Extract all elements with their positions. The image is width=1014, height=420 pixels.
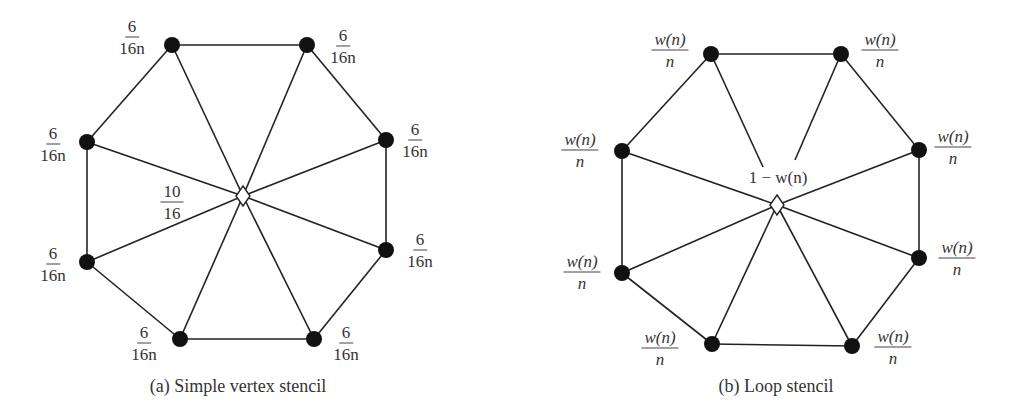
neighbor-vertices: [79, 37, 394, 347]
figure-caption-b: (b) Loop stencil: [719, 376, 834, 397]
spoke-edges: [622, 54, 919, 346]
simple-vertex-stencil-graph: [79, 37, 394, 347]
weight-label: 6 16n: [131, 323, 157, 364]
loop-stencil-graph: [614, 46, 927, 354]
weight-label: 6 16n: [330, 26, 356, 67]
weight-label: 6 16n: [407, 230, 433, 271]
weight-label: w(n) n: [563, 252, 600, 293]
ring-edges: [87, 45, 386, 339]
weight-label: w(n) n: [874, 327, 911, 368]
weight-label: w(n) n: [641, 328, 678, 369]
center-weight-label: 1 − w(n): [749, 168, 808, 188]
weight-label: w(n) n: [861, 30, 898, 71]
weight-label: 6 16n: [40, 124, 66, 165]
weight-label: w(n) n: [934, 127, 971, 168]
center-vertex-diamond: [236, 186, 250, 206]
weight-label: 6 16n: [402, 120, 428, 161]
weight-label: w(n) n: [938, 238, 975, 279]
weight-label: 6 16n: [119, 17, 145, 58]
center-vertex-diamond: [770, 195, 784, 215]
center-weight-label: 10 16: [161, 182, 184, 223]
weight-label: 6 16n: [40, 244, 66, 285]
weight-label: w(n) n: [651, 30, 688, 71]
spoke-edges: [87, 45, 386, 339]
ring-edges: [622, 54, 919, 346]
neighbor-vertices: [614, 46, 927, 354]
figure-caption-a: (a) Simple vertex stencil: [150, 376, 326, 397]
weight-label: w(n) n: [561, 130, 598, 171]
weight-label: 6 16n: [333, 323, 359, 364]
